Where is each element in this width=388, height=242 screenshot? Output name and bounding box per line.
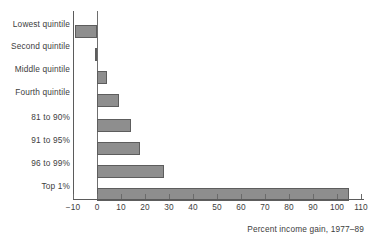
category-label-middle-quintile: Middle quintile	[15, 65, 70, 73]
value-axis-tick	[73, 194, 74, 199]
category-label-lowest-quintile: Lowest quintile	[13, 20, 70, 28]
category-label-81-to-90: 81 to 90%	[31, 113, 70, 121]
bar-91-to-95	[97, 142, 140, 155]
category-label-second-quintile: Second quintile	[11, 42, 70, 50]
value-axis-tick	[289, 194, 290, 199]
value-axis-tick	[217, 194, 218, 199]
value-axis-tick	[313, 194, 314, 199]
bar-middle-quintile	[97, 71, 107, 84]
value-axis-title: Percent income gain, 1977–89	[247, 225, 364, 233]
value-axis-line	[73, 199, 364, 200]
value-axis-tick	[121, 194, 122, 199]
bar-fourth-quintile	[97, 94, 119, 107]
value-axis-tick	[145, 194, 146, 199]
bar-81-to-90	[97, 119, 131, 132]
category-label-96-to-99: 96 to 99%	[31, 159, 70, 167]
bar-lowest-quintile	[75, 25, 97, 38]
value-axis-tick	[97, 194, 98, 199]
bar-chart: Lowest quintile Second quintile Middle q…	[0, 0, 388, 242]
value-axis-tick	[193, 194, 194, 199]
bar-96-to-99	[97, 165, 164, 178]
plot-area	[73, 11, 361, 199]
category-label-fourth-quintile: Fourth quintile	[15, 88, 70, 96]
category-label-top-1: Top 1%	[41, 182, 70, 190]
bar-second-quintile	[95, 48, 97, 61]
value-axis-tick-label: 110	[346, 203, 376, 211]
value-axis-tick	[337, 194, 338, 199]
value-axis-tick	[265, 194, 266, 199]
value-axis-tick	[361, 194, 362, 199]
value-axis-tick	[169, 194, 170, 199]
category-label-91-to-95: 91 to 95%	[31, 136, 70, 144]
value-axis-tick	[241, 194, 242, 199]
category-axis-line	[73, 11, 74, 199]
